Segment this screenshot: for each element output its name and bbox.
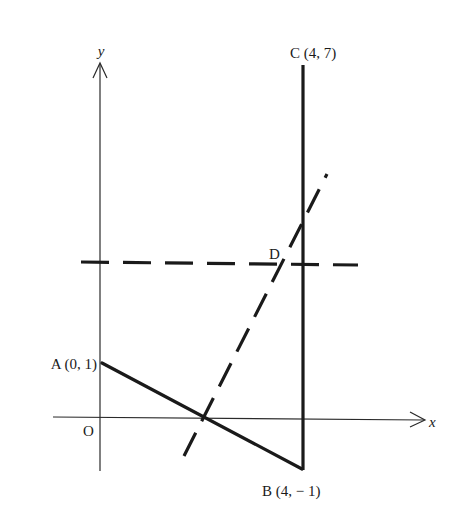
x-axis-label: x — [428, 414, 436, 430]
y-axis-label: y — [96, 43, 105, 59]
point-a-label: A (0, 1) — [51, 356, 97, 373]
point-c-label: C (4, 7) — [290, 45, 336, 62]
point-b-label: B (4, − 1) — [262, 483, 320, 500]
x-axis — [53, 412, 425, 427]
segment-ab — [102, 363, 302, 469]
dashed-line-oblique — [184, 174, 327, 456]
dashed-line-horizontal — [81, 262, 358, 265]
point-d-label: D — [269, 246, 280, 262]
coordinate-diagram: y x O A (0, 1) B (4, − 1) C (4, 7) D — [0, 0, 465, 515]
origin-label: O — [83, 423, 94, 439]
y-axis — [93, 63, 107, 471]
